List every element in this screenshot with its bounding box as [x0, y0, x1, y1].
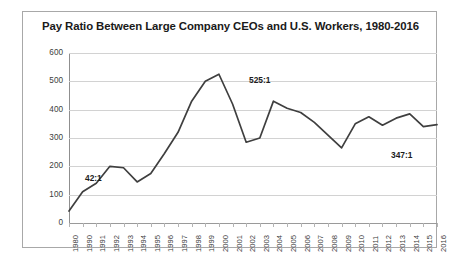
- data-label-347-1: 347:1: [391, 150, 412, 160]
- x-tick-1995: [151, 223, 152, 227]
- x-tick-label-2000: 2000: [222, 235, 229, 252]
- x-tick-label-2007: 2007: [317, 235, 324, 252]
- x-tick-label-1990: 1990: [86, 235, 93, 252]
- x-tick-1997: [178, 223, 179, 227]
- x-tick-2012: [382, 223, 383, 227]
- x-tick-1996: [164, 223, 165, 227]
- x-tick-label-1996: 1996: [167, 235, 174, 252]
- chart-page: Pay Ratio Between Large Company CEOs and…: [0, 0, 464, 265]
- x-tick-label-1993: 1993: [127, 235, 134, 252]
- x-tick-label-1997: 1997: [181, 235, 188, 252]
- x-tick-2003: [260, 223, 261, 227]
- x-tick-label-2013: 2013: [399, 235, 406, 252]
- x-tick-label-2009: 2009: [345, 235, 352, 252]
- x-tick-label-2005: 2005: [290, 235, 297, 252]
- x-tick-1999: [205, 223, 206, 227]
- x-tick-label-2014: 2014: [413, 235, 420, 252]
- x-tick-2004: [273, 223, 274, 227]
- x-tick-1990: [83, 223, 84, 227]
- x-tick-2000: [219, 223, 220, 227]
- x-tick-1992: [110, 223, 111, 227]
- x-tick-label-1991: 1991: [99, 235, 106, 252]
- series-polyline: [69, 74, 437, 211]
- x-tick-2010: [355, 223, 356, 227]
- y-tick-label-400: 400: [29, 106, 63, 114]
- x-tick-2015: [423, 223, 424, 227]
- x-tick-2014: [410, 223, 411, 227]
- x-tick-2008: [328, 223, 329, 227]
- x-tick-2006: [301, 223, 302, 227]
- chart-frame: Pay Ratio Between Large Company CEOs and…: [22, 11, 437, 248]
- x-tick-label-1998: 1998: [195, 235, 202, 252]
- x-tick-label-2011: 2011: [372, 236, 379, 252]
- x-tick-label-1999: 1999: [208, 235, 215, 252]
- x-tick-2016: [437, 223, 438, 227]
- x-tick-label-2006: 2006: [304, 235, 311, 252]
- x-tick-label-1994: 1994: [140, 235, 147, 252]
- y-tick-label-0: 0: [29, 219, 63, 227]
- x-tick-label-2001: 2001: [236, 235, 243, 252]
- x-tick-label-1995: 1995: [154, 235, 161, 252]
- x-tick-2002: [246, 223, 247, 227]
- y-tick-label-200: 200: [29, 162, 63, 170]
- x-tick-label-1980: 1980: [72, 235, 79, 252]
- x-tick-2009: [342, 223, 343, 227]
- x-tick-1991: [96, 223, 97, 227]
- x-tick-label-2008: 2008: [331, 235, 338, 252]
- data-label-42-1: 42:1: [85, 173, 102, 183]
- x-tick-2005: [287, 223, 288, 227]
- x-tick-label-2015: 2015: [426, 235, 433, 252]
- x-tick-2013: [396, 223, 397, 227]
- x-tick-2001: [233, 223, 234, 227]
- data-label-525-1: 525:1: [249, 75, 270, 85]
- x-tick-label-1992: 1992: [113, 235, 120, 252]
- y-tick-label-100: 100: [29, 191, 63, 199]
- x-tick-label-2004: 2004: [276, 235, 283, 252]
- chart-title: Pay Ratio Between Large Company CEOs and…: [31, 20, 430, 32]
- x-tick-2007: [314, 223, 315, 227]
- x-tick-label-2002: 2002: [249, 235, 256, 252]
- x-tick-label-2010: 2010: [358, 235, 365, 252]
- x-tick-1993: [124, 223, 125, 227]
- x-tick-1998: [192, 223, 193, 227]
- x-tick-1980: [69, 223, 70, 227]
- x-tick-label-2012: 2012: [385, 235, 392, 252]
- x-tick-1994: [137, 223, 138, 227]
- x-tick-2011: [369, 223, 370, 227]
- y-tick-label-600: 600: [29, 49, 63, 57]
- y-tick-label-300: 300: [29, 134, 63, 142]
- x-tick-label-2003: 2003: [263, 235, 270, 252]
- x-tick-label-2016: 2016: [440, 235, 447, 252]
- y-tick-label-500: 500: [29, 77, 63, 85]
